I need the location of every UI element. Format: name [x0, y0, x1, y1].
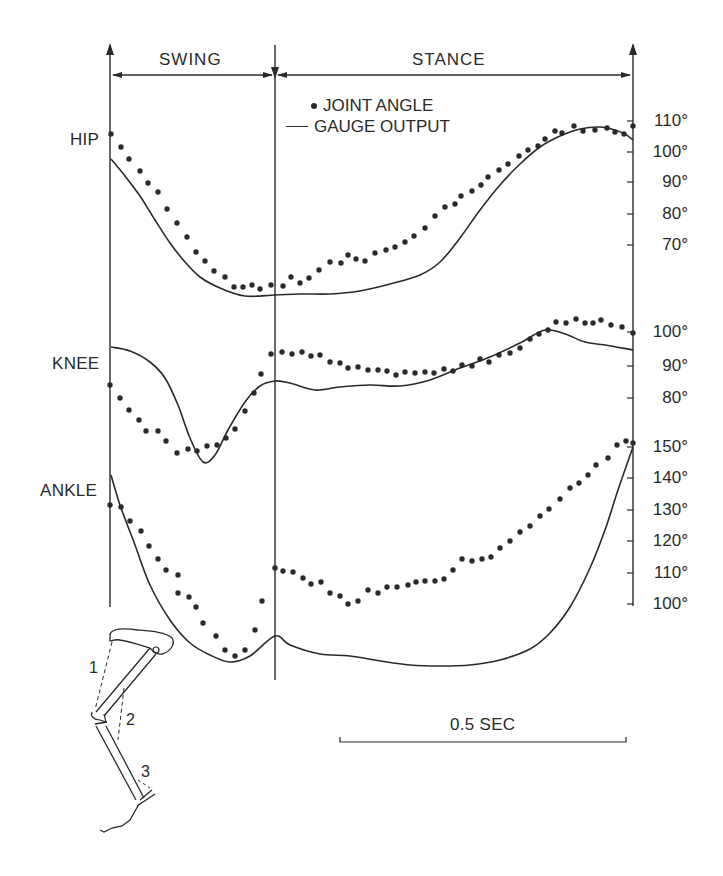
joint-angle-dot	[365, 367, 370, 372]
femur-icon	[96, 648, 156, 716]
joint-angle-dot	[402, 239, 407, 244]
time-scale-bar	[340, 737, 626, 742]
tick-label-hip: 110°	[654, 112, 688, 129]
axes-layer	[106, 43, 637, 742]
joint-angle-dot	[251, 390, 256, 395]
legend-gauge-output: GAUGE OUTPUT	[286, 118, 450, 135]
joint-angle-dot	[211, 268, 216, 273]
joint-angle-dot	[318, 579, 323, 584]
joint-angle-dot	[630, 440, 635, 445]
joint-angle-dot	[272, 565, 277, 570]
joint-angle-dot	[126, 407, 131, 412]
joint-angle-dot	[623, 438, 628, 443]
tick-label-knee: 100°	[653, 323, 688, 340]
joint-angle-dot	[452, 201, 457, 206]
joint-angle-dot	[107, 382, 112, 387]
joint-angle-dot	[204, 443, 209, 448]
line-marker-icon	[286, 126, 308, 128]
joint-angle-dot	[338, 260, 343, 265]
tick-label-hip: 90°	[662, 173, 688, 190]
joint-angle-dot	[402, 369, 407, 374]
joint-angle-dot	[542, 136, 547, 141]
joint-angle-dot	[242, 408, 247, 413]
joint-angle-dot	[432, 213, 437, 218]
joint-angle-dot	[232, 653, 237, 658]
joint-angle-dot	[405, 582, 410, 587]
joint-angle-dot	[240, 284, 245, 289]
joint-angle-dot	[582, 320, 587, 325]
tick-label-hip: 70°	[662, 236, 688, 253]
joint-angle-dot	[392, 244, 397, 249]
panel-label-hip: HIP	[70, 131, 99, 148]
joint-angle-dot	[469, 558, 474, 563]
tick-label-ankle: 140°	[653, 469, 688, 486]
tick-label-ankle: 120°	[653, 532, 688, 549]
joint-angle-dot	[249, 282, 254, 287]
joint-angle-dot	[411, 233, 416, 238]
foot-icon	[100, 804, 139, 832]
joint-angle-dot	[280, 568, 285, 573]
joint-angle-dot	[567, 485, 572, 490]
joint-angle-dot	[375, 367, 380, 372]
joint-angle-dot	[175, 590, 180, 595]
joint-angle-dot	[193, 249, 198, 254]
joint-angle-dot	[458, 193, 463, 198]
joint-angle-dot	[535, 143, 540, 148]
tick-label-knee: 80°	[662, 389, 688, 406]
joint-angle-dot	[478, 182, 483, 187]
joint-angle-dot	[223, 435, 228, 440]
joint-angle-dot	[317, 352, 322, 357]
joint-angle-dot	[345, 252, 350, 257]
joint-angle-dot	[146, 543, 151, 548]
arrow-down-icon	[271, 67, 279, 79]
joint-angle-dot	[164, 206, 169, 211]
joint-angle-dot	[412, 370, 417, 375]
joint-angle-dot	[280, 283, 285, 288]
joint-angle-dot	[107, 502, 112, 507]
joint-angle-dot	[345, 365, 350, 370]
joint-angle-dot	[573, 316, 578, 321]
tick-label-ankle: 110°	[654, 564, 688, 581]
joint-angle-dot	[552, 128, 557, 133]
joint-angle-dot	[469, 363, 474, 368]
joint-angle-dot	[300, 575, 305, 580]
joint-angle-dot	[576, 480, 581, 485]
joint-angle-dot	[630, 330, 635, 335]
joint-angle-dot	[375, 590, 380, 595]
joint-angle-dot	[355, 364, 360, 369]
joint-angle-dot	[394, 584, 399, 589]
joint-angle-dot	[422, 578, 427, 583]
joint-angle-dot	[316, 267, 321, 272]
joint-angle-dot	[290, 569, 295, 574]
joint-angle-dot	[327, 359, 332, 364]
joint-angle-dot	[479, 556, 484, 561]
joint-angle-dot	[259, 598, 264, 603]
phase-label-swing: SWING	[159, 51, 222, 68]
joint-angle-dot	[268, 351, 273, 356]
joint-angle-dot	[507, 538, 512, 543]
joint-angle-dot	[174, 220, 179, 225]
joint-angle-dot	[459, 556, 464, 561]
joint-angle-dot	[608, 322, 613, 327]
dots-layer	[107, 123, 635, 658]
joint-angle-dot	[365, 587, 370, 592]
panel-label-ankle: ANKLE	[40, 482, 97, 499]
joint-angle-dot	[496, 352, 501, 357]
joint-angle-dot	[145, 180, 150, 185]
joint-angle-dot	[517, 345, 522, 350]
joint-angle-dot	[136, 417, 141, 422]
joint-angle-dot	[486, 359, 491, 364]
joint-angle-dot	[422, 369, 427, 374]
joint-angle-dot	[252, 627, 257, 632]
joint-angle-dot	[163, 438, 168, 443]
joint-angle-dot	[614, 442, 619, 447]
joint-angle-dot	[222, 647, 227, 652]
joint-angle-dot	[118, 504, 123, 509]
joint-angle-dot	[459, 362, 464, 367]
joint-angle-dot	[393, 372, 398, 377]
joint-angle-dot	[477, 356, 482, 361]
joint-angle-dot	[507, 350, 512, 355]
joint-angle-dot	[432, 578, 437, 583]
joint-angle-dot	[193, 604, 198, 609]
gauge-output-curve-ankle	[111, 447, 633, 666]
